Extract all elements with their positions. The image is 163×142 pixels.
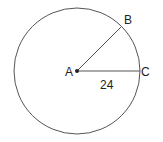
circle-diagram: A B C 24 (0, 0, 163, 142)
radius-ab (77, 27, 121, 71)
label-c: C (141, 65, 150, 79)
length-label-ac: 24 (100, 78, 114, 92)
center-point (75, 69, 79, 73)
label-b: B (124, 13, 132, 27)
label-a: A (65, 65, 73, 79)
